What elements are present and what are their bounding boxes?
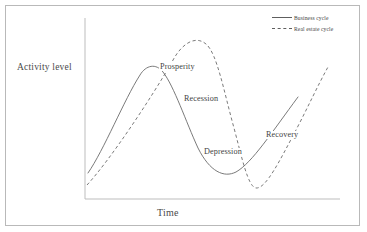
y-axis-label: Activity level: [17, 63, 72, 73]
real-estate-cycle-curve: [87, 40, 328, 188]
annotation-depression: Depression: [203, 148, 243, 156]
cycle-chart-canvas: [0, 0, 367, 232]
legend-dashed-line-icon: [272, 28, 292, 29]
legend-label-real-estate-cycle: Real estate cycle: [294, 26, 333, 32]
business-cycle-figure: Activity level Time Prosperity Recession…: [0, 0, 367, 232]
legend-item-business-cycle: Business cycle: [272, 12, 358, 23]
annotation-recovery: Recovery: [265, 131, 299, 139]
x-axis-label: Time: [157, 208, 179, 218]
annotation-recession: Recession: [183, 95, 219, 103]
legend-solid-line-icon: [272, 17, 292, 18]
legend-label-business-cycle: Business cycle: [294, 15, 329, 21]
legend-item-real-estate-cycle: Real estate cycle: [272, 23, 358, 34]
business-cycle-curve: [88, 66, 298, 174]
annotation-prosperity: Prosperity: [159, 63, 196, 71]
chart-legend: Business cycle Real estate cycle: [272, 12, 358, 34]
